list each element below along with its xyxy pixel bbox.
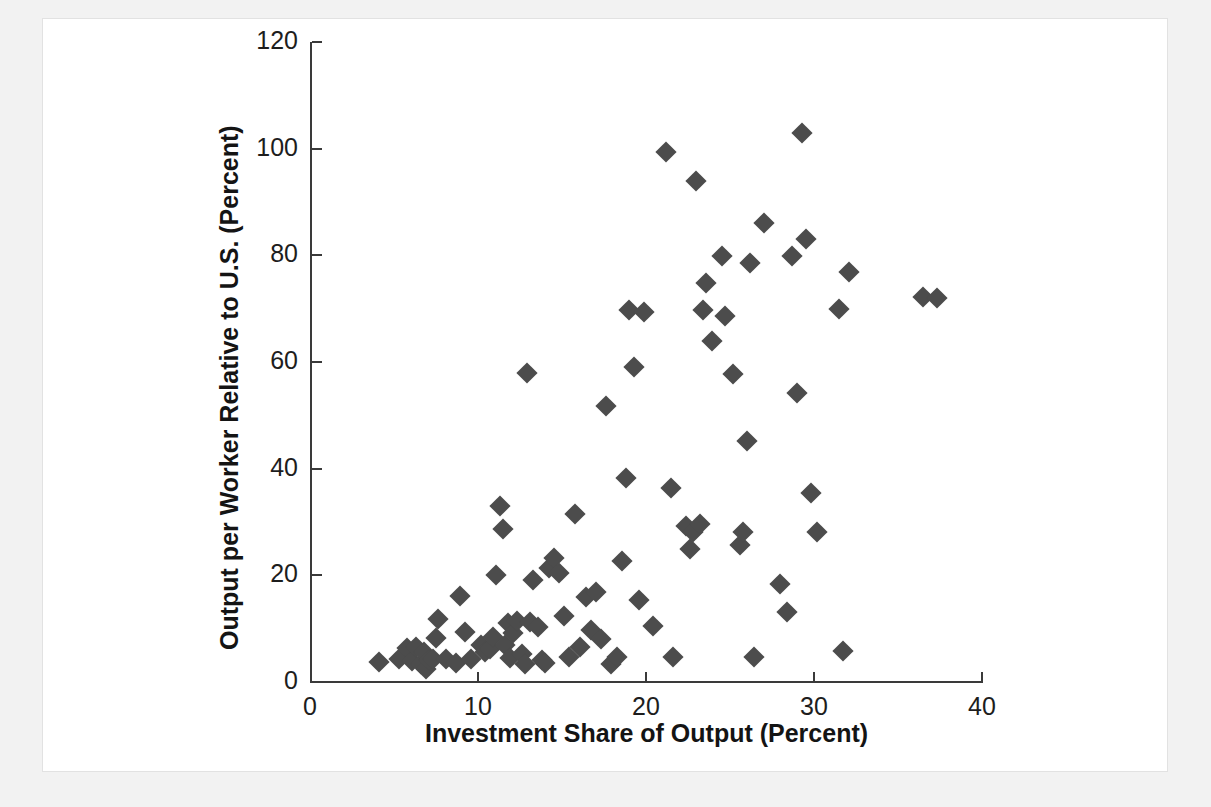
- data-point: [829, 298, 850, 319]
- data-point: [615, 468, 636, 489]
- data-point: [427, 608, 448, 629]
- data-point: [807, 521, 828, 542]
- data-point: [696, 272, 717, 293]
- data-point: [612, 551, 633, 572]
- data-point: [486, 564, 507, 585]
- y-tick-0: [312, 681, 322, 683]
- data-point: [634, 301, 655, 322]
- y-tick-100: [312, 148, 322, 150]
- x-tick-label-30: 30: [774, 692, 854, 721]
- data-point: [693, 300, 714, 321]
- data-point: [787, 382, 808, 403]
- x-tick-label-40: 40: [942, 692, 1022, 721]
- y-tick-120: [312, 41, 322, 43]
- x-tick-label-20: 20: [606, 692, 686, 721]
- data-point: [686, 171, 707, 192]
- data-point: [740, 252, 761, 273]
- data-point: [736, 431, 757, 452]
- x-tick-10: [477, 672, 479, 682]
- data-point: [782, 245, 803, 266]
- data-point: [493, 519, 514, 540]
- y-tick-label-120: 120: [228, 26, 298, 55]
- data-point: [800, 482, 821, 503]
- data-point: [777, 602, 798, 623]
- data-point: [629, 589, 650, 610]
- y-tick-60: [312, 361, 322, 363]
- figure-page: 020406080100120 010203040 Investment Sha…: [0, 0, 1211, 807]
- y-tick-20: [312, 574, 322, 576]
- data-point: [523, 570, 544, 591]
- data-point: [743, 646, 764, 667]
- data-point: [711, 246, 732, 267]
- x-tick-label-0: 0: [270, 692, 350, 721]
- data-point: [449, 585, 470, 606]
- data-point: [926, 287, 947, 308]
- data-point: [792, 122, 813, 143]
- data-point: [624, 357, 645, 378]
- data-point: [832, 640, 853, 661]
- data-point: [839, 262, 860, 283]
- data-point: [753, 213, 774, 234]
- data-point: [656, 141, 677, 162]
- data-point: [714, 305, 735, 326]
- y-tick-80: [312, 254, 322, 256]
- data-point: [701, 330, 722, 351]
- x-tick-30: [813, 672, 815, 682]
- x-tick-label-10: 10: [438, 692, 518, 721]
- x-tick-20: [645, 672, 647, 682]
- data-point: [770, 573, 791, 594]
- data-point: [795, 229, 816, 250]
- y-tick-label-0: 0: [228, 666, 298, 695]
- data-point: [723, 364, 744, 385]
- x-axis-title: Investment Share of Output (Percent): [310, 719, 983, 748]
- data-point: [679, 538, 700, 559]
- data-point: [454, 621, 475, 642]
- data-point: [642, 615, 663, 636]
- data-point: [516, 363, 537, 384]
- data-point: [368, 652, 389, 673]
- x-tick-40: [981, 672, 983, 682]
- data-point: [565, 503, 586, 524]
- data-point: [661, 477, 682, 498]
- y-tick-40: [312, 468, 322, 470]
- data-point: [553, 606, 574, 627]
- data-point: [662, 647, 683, 668]
- scatter-chart: 020406080100120 010203040 Investment Sha…: [0, 0, 1211, 807]
- y-axis-title: Output per Worker Relative to U.S. (Perc…: [215, 125, 244, 650]
- data-point: [595, 395, 616, 416]
- data-point: [489, 495, 510, 516]
